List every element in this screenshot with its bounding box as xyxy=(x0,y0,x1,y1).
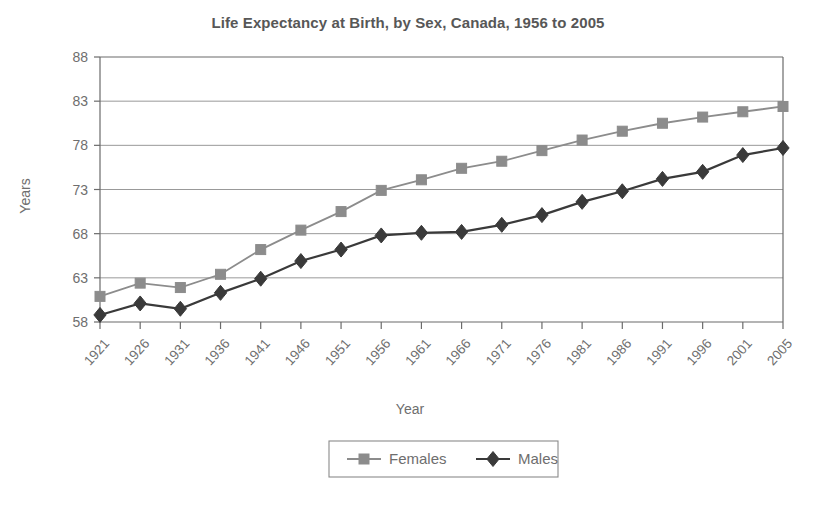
x-tick-label: 2001 xyxy=(724,336,755,368)
data-point-males xyxy=(214,285,226,300)
data-point-males xyxy=(415,225,427,240)
data-point-females xyxy=(657,118,667,128)
data-point-females xyxy=(376,185,386,195)
x-tick-label: 1986 xyxy=(603,336,634,368)
chart-figure: Life Expectancy at Birth, by Sex, Canada… xyxy=(0,0,816,509)
x-tick-label: 1981 xyxy=(563,336,594,368)
data-point-females xyxy=(617,126,627,136)
line-chart-canvas: 58636873788388 1921192619311936194119461… xyxy=(0,0,816,509)
x-tick-label: 1991 xyxy=(643,336,674,368)
x-axis-ticks: 1921192619311936194119461951195619611966… xyxy=(81,322,795,368)
y-tick-label: 63 xyxy=(72,270,88,286)
x-tick-label: 1976 xyxy=(523,336,554,368)
data-point-males xyxy=(496,217,508,232)
data-point-males xyxy=(576,194,588,209)
data-point-females xyxy=(135,278,145,288)
x-tick-label: 1961 xyxy=(402,336,433,368)
y-tick-label: 58 xyxy=(72,314,88,330)
x-tick-label: 1941 xyxy=(242,336,273,368)
chart-legend: FemalesMales xyxy=(329,441,558,477)
series-line-males xyxy=(100,148,783,315)
data-point-females xyxy=(698,112,708,122)
x-tick-label: 1926 xyxy=(121,336,152,368)
legend-marker-females xyxy=(359,454,369,464)
y-axis-title: Years xyxy=(17,178,33,213)
x-tick-label: 1996 xyxy=(684,336,715,368)
data-point-males xyxy=(777,140,789,155)
x-tick-label: 1936 xyxy=(202,336,233,368)
data-point-females xyxy=(336,207,346,217)
x-tick-label: 1921 xyxy=(81,336,112,368)
data-point-females xyxy=(296,225,306,235)
data-series-layer xyxy=(94,101,789,322)
data-point-males xyxy=(134,296,146,311)
data-point-females xyxy=(497,156,507,166)
data-point-males xyxy=(174,301,186,316)
data-point-males xyxy=(696,164,708,179)
data-point-males xyxy=(255,271,267,286)
x-tick-label: 1966 xyxy=(443,336,474,368)
data-point-females xyxy=(537,146,547,156)
legend-label-males: Males xyxy=(518,450,558,467)
y-tick-label: 83 xyxy=(72,93,88,109)
x-tick-label: 1946 xyxy=(282,336,313,368)
data-point-males xyxy=(455,224,467,239)
x-tick-label: 2005 xyxy=(764,336,795,368)
x-tick-label: 1931 xyxy=(161,336,192,368)
data-point-females xyxy=(95,291,105,301)
data-point-females xyxy=(457,163,467,173)
x-tick-label: 1956 xyxy=(362,336,393,368)
data-point-females xyxy=(256,245,266,255)
x-tick-label: 1971 xyxy=(483,336,514,368)
data-point-females xyxy=(216,269,226,279)
y-tick-label: 88 xyxy=(72,49,88,65)
legend-label-females: Females xyxy=(389,450,447,467)
y-tick-label: 73 xyxy=(72,182,88,198)
y-tick-label: 68 xyxy=(72,226,88,242)
data-point-females xyxy=(175,283,185,293)
data-point-females xyxy=(416,175,426,185)
data-point-males xyxy=(375,228,387,243)
data-point-females xyxy=(778,101,788,111)
data-point-males xyxy=(616,184,628,199)
data-point-males xyxy=(656,171,668,186)
data-point-females xyxy=(577,135,587,145)
data-point-males xyxy=(737,148,749,163)
data-point-males xyxy=(335,242,347,257)
data-point-females xyxy=(738,107,748,117)
data-point-males xyxy=(536,208,548,223)
data-point-males xyxy=(295,254,307,269)
grid-lines xyxy=(100,101,783,278)
y-tick-label: 78 xyxy=(72,137,88,153)
y-axis-ticks: 58636873788388 xyxy=(72,49,100,330)
x-axis-title: Year xyxy=(396,401,425,417)
x-tick-label: 1951 xyxy=(322,336,353,368)
data-point-males xyxy=(94,307,106,322)
series-line-females xyxy=(100,106,783,296)
